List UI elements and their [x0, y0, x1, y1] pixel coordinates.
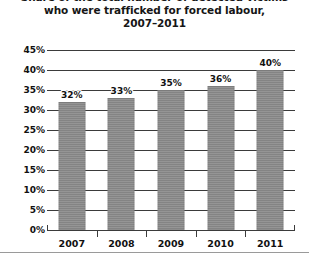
- y-axis-tick-label: 30%: [0, 105, 45, 116]
- bar[interactable]: [58, 102, 85, 230]
- y-axis-tick-label: 10%: [0, 185, 45, 196]
- bar-slot: 33%: [97, 50, 147, 230]
- y-axis-tick-label: 15%: [0, 165, 45, 176]
- bar-value-label: 35%: [160, 78, 182, 89]
- y-axis-tick-label: 20%: [0, 145, 45, 156]
- y-axis-tick-label: 0%: [0, 225, 45, 236]
- bar-value-label: 33%: [111, 86, 133, 97]
- bar-value-label: 36%: [210, 74, 232, 85]
- y-axis-tick-label: 35%: [0, 85, 45, 96]
- bar-slot: 35%: [146, 50, 196, 230]
- y-axis-tick-label: 40%: [0, 65, 45, 76]
- bar[interactable]: [108, 98, 135, 230]
- x-axis-category-label: 2007: [47, 237, 97, 251]
- bar-slot: 40%: [245, 50, 295, 230]
- bar-value-label: 40%: [259, 58, 281, 69]
- bar[interactable]: [157, 90, 184, 230]
- x-axis-category-label: 2008: [97, 237, 147, 251]
- y-axis-tick-label: 25%: [0, 125, 45, 136]
- y-axis-tick-label: 5%: [0, 205, 45, 216]
- x-axis-category-label: 2009: [146, 237, 196, 251]
- x-axis-category-label: 2011: [245, 237, 295, 251]
- bar-slot: 32%: [47, 50, 97, 230]
- x-axis: 20072008200920102011: [47, 231, 295, 253]
- bar-value-label: 32%: [61, 90, 83, 101]
- bar-series: 32%33%35%36%40%: [47, 50, 295, 230]
- bar[interactable]: [207, 86, 234, 230]
- footer-divider: [0, 252, 309, 253]
- plot-area: 45%40%35%30%25%20%15%10%5%0% 32%33%35%36…: [0, 0, 309, 260]
- y-axis-tick-label: 45%: [0, 45, 45, 56]
- bar[interactable]: [257, 70, 284, 230]
- x-axis-category-label: 2010: [196, 237, 246, 251]
- chart-figure: Share of the total number of detected vi…: [0, 0, 309, 260]
- bar-slot: 36%: [196, 50, 246, 230]
